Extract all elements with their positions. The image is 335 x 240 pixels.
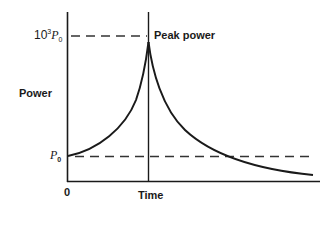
power-decay-curve xyxy=(149,42,314,175)
peak-power-label: Peak power xyxy=(154,29,215,41)
power-rise-curve xyxy=(68,42,149,156)
peak-level-base: 10 xyxy=(34,28,47,42)
baseline-subscript: 0 xyxy=(57,156,61,163)
peak-level-subscript: 0 xyxy=(59,36,63,43)
y-axis-label: Power xyxy=(19,87,52,99)
peak-level-label: 103P0 xyxy=(34,28,63,43)
baseline-level-label: P0 xyxy=(50,148,61,163)
x-axis-label: Time xyxy=(138,189,163,201)
origin-label: 0 xyxy=(64,186,70,198)
peak-level-symbol: P xyxy=(51,28,58,42)
